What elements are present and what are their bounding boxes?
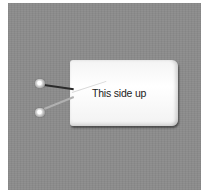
package-label: This side up <box>92 87 172 99</box>
lower-connector-icon <box>35 108 45 117</box>
upper-connector-icon <box>35 79 45 88</box>
